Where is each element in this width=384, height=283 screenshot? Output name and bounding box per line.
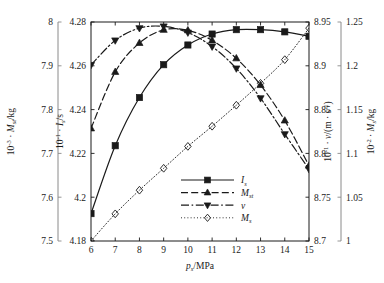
legend-marker-v xyxy=(204,203,211,209)
data-point-I_s xyxy=(233,27,239,33)
svg-text:1.1: 1.1 xyxy=(346,149,358,159)
legend-label-M_st: Mst xyxy=(240,188,253,199)
legend-label-M_s: Ms xyxy=(240,213,252,224)
svg-text:14: 14 xyxy=(280,245,290,255)
legend-label-v: v xyxy=(241,201,246,211)
svg-text:7.9: 7.9 xyxy=(41,61,53,71)
series-line-M_st xyxy=(91,29,309,166)
figure-container: IsMstvMs 6789101112131415ps/MPa7.57.67.7… xyxy=(0,0,384,283)
svg-text:4.18: 4.18 xyxy=(69,236,86,246)
svg-text:1.15: 1.15 xyxy=(346,105,363,115)
svg-text:4.22: 4.22 xyxy=(69,149,86,159)
svg-text:12: 12 xyxy=(232,245,242,255)
svg-text:4.24: 4.24 xyxy=(69,105,86,115)
svg-text:13: 13 xyxy=(256,245,266,255)
svg-text:7.7: 7.7 xyxy=(41,149,53,159)
svg-text:1: 1 xyxy=(346,236,351,246)
data-point-I_s xyxy=(136,94,142,100)
data-point-M_st xyxy=(87,125,94,131)
svg-text:8.7: 8.7 xyxy=(314,236,326,246)
svg-text:11: 11 xyxy=(208,245,217,255)
axes-layer xyxy=(58,22,341,241)
svg-text:8.9: 8.9 xyxy=(314,61,326,71)
data-point-I_s xyxy=(306,33,312,39)
data-point-v xyxy=(305,167,312,173)
data-point-I_s xyxy=(88,211,94,217)
data-point-v xyxy=(233,66,240,72)
data-point-M_st xyxy=(112,68,119,74)
legend-marker-M_st xyxy=(204,189,211,195)
svg-text:15: 15 xyxy=(304,245,314,255)
svg-text:6: 6 xyxy=(89,245,94,255)
svg-text:ps/MPa: ps/MPa xyxy=(185,261,215,272)
svg-text:7.8: 7.8 xyxy=(41,105,53,115)
svg-text:7: 7 xyxy=(113,245,118,255)
series-layer xyxy=(87,24,312,245)
labels-layer: 6789101112131415ps/MPa7.57.67.77.87.984.… xyxy=(5,17,378,272)
svg-text:10-2 · Ms/kg: 10-2 · Ms/kg xyxy=(365,109,378,155)
svg-text:1.05: 1.05 xyxy=(346,193,363,203)
data-point-I_s xyxy=(112,143,118,149)
svg-text:1.2: 1.2 xyxy=(346,61,358,71)
data-point-v xyxy=(209,44,216,50)
svg-text:10-3 · Mst/kg: 10-3 · Mst/kg xyxy=(5,108,18,155)
data-point-M_st xyxy=(136,39,143,45)
svg-text:4.28: 4.28 xyxy=(69,17,86,27)
svg-text:8: 8 xyxy=(137,245,142,255)
legend-layer: IsMstvMs xyxy=(181,175,253,224)
chart-canvas: IsMstvMs 6789101112131415ps/MPa7.57.67.7… xyxy=(0,0,384,283)
data-point-M_st xyxy=(281,117,288,123)
legend-marker-I_s xyxy=(205,177,211,183)
svg-text:7.5: 7.5 xyxy=(41,236,53,246)
svg-text:4.26: 4.26 xyxy=(69,61,86,71)
svg-text:10: 10 xyxy=(183,245,193,255)
data-point-I_s xyxy=(161,62,167,68)
svg-text:8.95: 8.95 xyxy=(314,17,331,27)
svg-text:7.6: 7.6 xyxy=(41,193,53,203)
svg-text:8.75: 8.75 xyxy=(314,193,331,203)
svg-text:10-1 · Is/s: 10-1 · Is/s xyxy=(54,114,67,149)
svg-text:10-1 · v/(m · s-1): 10-1 · v/(m · s-1) xyxy=(322,101,334,161)
legend-label-I_s: Is xyxy=(240,175,247,186)
svg-text:8: 8 xyxy=(48,17,53,27)
data-point-I_s xyxy=(282,29,288,35)
series-line-v xyxy=(91,26,309,169)
data-point-v xyxy=(112,38,119,44)
svg-text:9: 9 xyxy=(161,245,166,255)
svg-text:4.2: 4.2 xyxy=(74,193,86,203)
data-point-I_s xyxy=(257,27,263,33)
data-point-I_s xyxy=(185,42,191,48)
svg-text:1.25: 1.25 xyxy=(346,17,363,27)
